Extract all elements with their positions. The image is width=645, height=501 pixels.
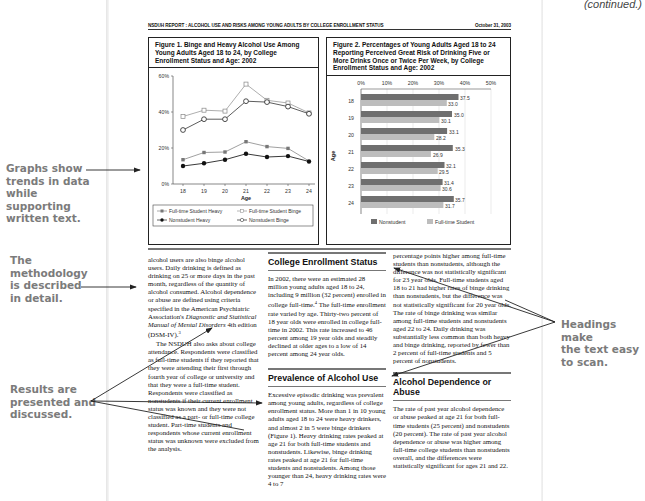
value-label: 31.7 xyxy=(445,203,455,209)
y-tick: 20% xyxy=(159,145,170,151)
annotation-line: written text. xyxy=(6,212,90,225)
heading-dependence-abuse: Alcohol Dependence or Abuse xyxy=(393,372,511,401)
figure-2-legend: Nonstudent Full-time Student xyxy=(371,219,475,225)
x-tick: 0% xyxy=(357,80,365,86)
category-21: 21 xyxy=(348,149,354,155)
y-tick: 60% xyxy=(159,73,170,79)
annotation-graphs: Graphs show trends in data while support… xyxy=(6,162,90,225)
x-tick: 19 xyxy=(201,188,207,194)
x-tick: 23 xyxy=(285,188,291,194)
legend-fulltime-heavy: Full-time Student Heavy xyxy=(169,208,223,214)
y-axis-label: Age xyxy=(330,151,336,162)
x-tick: 50% xyxy=(486,80,497,86)
paragraph-prevalence-continued: percentage points higher among full-time… xyxy=(393,252,511,365)
category-22: 22 xyxy=(348,166,354,172)
category-20: 20 xyxy=(348,132,354,138)
x-tick: 20 xyxy=(222,188,228,194)
value-label: 35.0 xyxy=(454,112,464,118)
value-label: 29.5 xyxy=(439,169,449,175)
paragraph-enrollment: In 2002, there were an estimated 28 mill… xyxy=(268,275,386,358)
running-title: NSDUH REPORT : ALCOHOL USE AND RISKS AMO… xyxy=(148,23,384,28)
report-date: October 31, 2003 xyxy=(475,23,511,28)
continued-label: (continued.) xyxy=(562,0,642,10)
figure-1-title: Figure 1. Binge and Heavy Alcohol Use Am… xyxy=(149,38,318,68)
value-label: 30.1 xyxy=(441,118,451,124)
x-tick: 22 xyxy=(264,188,270,194)
annotation-line: presented and xyxy=(10,396,96,409)
figure-1-line-chart: 0% 20% 40% 60% 18 19 20 21 22 23 24 Age xyxy=(149,68,317,232)
x-tick: 10% xyxy=(382,80,393,86)
x-axis-label: Age xyxy=(241,195,251,201)
paragraph-college-attendance: The NSDUH also asks about college attend… xyxy=(148,340,260,453)
value-label: 26.9 xyxy=(433,152,443,158)
paragraph-definitions: alcohol users are also binge alcohol use… xyxy=(148,256,260,339)
body-column-2: College Enrollment Status In 2002, there… xyxy=(268,252,386,488)
text-run: The full-time enrollment rate varied by … xyxy=(268,302,386,358)
y-tick-labels: 0% 20% 40% 60% xyxy=(159,73,170,187)
annotation-line: Graphs show xyxy=(6,162,90,175)
annotation-line: to scan. xyxy=(561,356,645,369)
footnote-ref: 3 xyxy=(178,330,180,335)
legend-nonstudent-heavy: Nonstudent Heavy xyxy=(169,217,211,223)
body-column-3: percentage points higher among full-time… xyxy=(393,252,511,470)
figure-2: Figure 2. Percentages of Young Adults Ag… xyxy=(326,37,511,245)
x-tick: 21 xyxy=(243,188,249,194)
paragraph-dependence: The rate of past year alcohol dependence… xyxy=(393,405,511,470)
value-label: 35.3 xyxy=(455,146,465,152)
running-header: NSDUH REPORT : ALCOHOL USE AND RISKS AMO… xyxy=(148,22,511,30)
x-tick: 20% xyxy=(408,80,419,86)
category-19: 19 xyxy=(348,115,354,121)
x-tick-labels: 18 19 20 21 22 23 24 xyxy=(180,188,312,194)
annotation-methodology: The methodology is described in detail. xyxy=(10,254,88,304)
section-divider xyxy=(148,248,511,250)
annotation-line: trends in data xyxy=(6,175,90,188)
legend-nonstudent: Nonstudent xyxy=(379,219,406,225)
body-column-1: alcohol users are also binge alcohol use… xyxy=(148,256,260,454)
value-label: 35.7 xyxy=(455,197,465,203)
annotation-line: The xyxy=(10,254,88,267)
heading-college-enrollment: College Enrollment Status xyxy=(268,252,386,271)
figure-2-title: Figure 2. Percentages of Young Adults Ag… xyxy=(327,38,510,76)
category-23: 23 xyxy=(348,183,354,189)
text-run: alcohol users are also binge alcohol use… xyxy=(148,256,256,320)
category-labels: 18 19 20 21 22 23 24 xyxy=(348,98,354,206)
value-label: 33.1 xyxy=(449,129,459,135)
annotation-line: discussed. xyxy=(10,408,96,421)
series-fulltime-heavy xyxy=(183,142,309,161)
annotation-line: is described xyxy=(10,279,88,292)
annotation-line: while xyxy=(6,187,90,200)
category-18: 18 xyxy=(348,98,354,104)
legend-nonstudent-binge: Nonstudent Binge xyxy=(249,217,289,223)
figure-2-bar-chart: 0% 10% 20% 30% 40% 50% Age 18 19 20 21 2… xyxy=(327,76,509,232)
nonstudent-binge-markers xyxy=(181,99,312,133)
x-tick: 18 xyxy=(180,188,186,194)
legend-fulltime: Full-time Student xyxy=(435,219,475,225)
paragraph-prevalence: Excessive episodic drinking was prevalen… xyxy=(268,391,386,488)
x-tick-labels: 0% 10% 20% 30% 40% 50% xyxy=(357,80,496,86)
value-label: 30.6 xyxy=(442,186,452,192)
category-24: 24 xyxy=(348,200,354,206)
annotation-line: Results are xyxy=(10,383,96,396)
value-label: 33.0 xyxy=(448,101,458,107)
value-label: 37.5 xyxy=(460,95,470,101)
x-tick: 30% xyxy=(434,80,445,86)
annotation-line: in detail. xyxy=(10,292,88,305)
right-margin xyxy=(543,0,645,501)
annotation-results: Results are presented and discussed. xyxy=(10,383,96,421)
annotation-headings: Headings make the text easy to scan. xyxy=(561,318,645,368)
y-tick: 40% xyxy=(159,109,170,115)
annotation-line: supporting xyxy=(6,200,90,213)
x-tick: 24 xyxy=(306,188,312,194)
x-tick: 40% xyxy=(460,80,471,86)
annotation-line: methodology xyxy=(10,267,88,280)
figure-1: Figure 1. Binge and Heavy Alcohol Use Am… xyxy=(148,37,319,245)
value-label: 28.2 xyxy=(436,135,446,141)
heading-prevalence: Prevalence of Alcohol Use xyxy=(268,368,386,387)
legend-fulltime-binge: Full-time Student Binge xyxy=(249,208,301,214)
y-tick: 0% xyxy=(162,181,170,187)
left-margin xyxy=(0,0,108,501)
fulltime-heavy-markers xyxy=(181,140,289,161)
annotation-line: Headings make xyxy=(561,318,645,343)
annotation-line: the text easy xyxy=(561,343,645,356)
